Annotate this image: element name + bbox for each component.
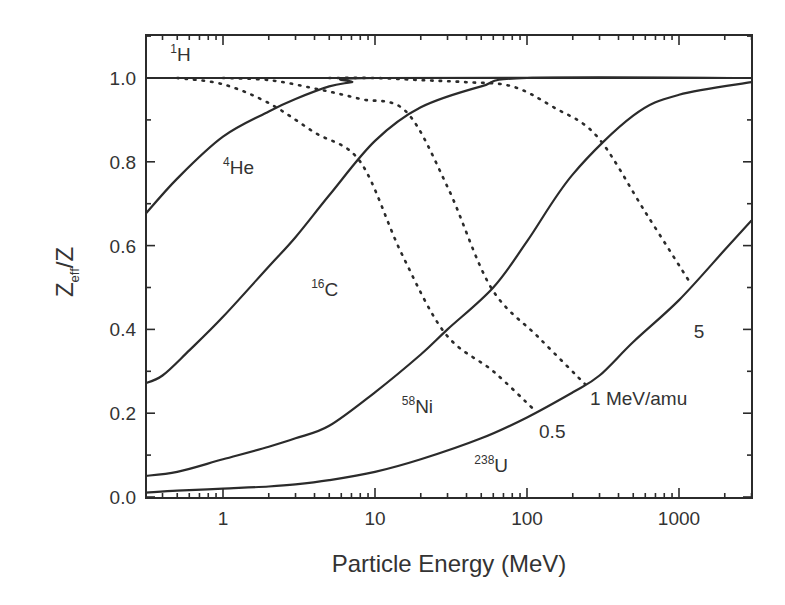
annotation-label: 0.5 bbox=[539, 421, 565, 442]
y-title-main: Z bbox=[51, 282, 78, 297]
annotation-label: 1 MeV/amu bbox=[590, 388, 687, 409]
x-axis: 1101001000 bbox=[163, 35, 752, 529]
y-tick-label: 0.8 bbox=[110, 152, 136, 173]
y-title-tail: /Z bbox=[51, 247, 78, 268]
curve-he bbox=[144, 78, 752, 217]
x-tick-label: 1 bbox=[218, 508, 229, 529]
curve-annotations: 1H4He16C58Ni238U0.51 MeV/amu5 bbox=[170, 42, 704, 476]
y-tick-label: 1.0 bbox=[110, 68, 136, 89]
curve-ni bbox=[144, 82, 752, 476]
y-tick-label: 0.0 bbox=[110, 487, 136, 508]
annotation-label: 238U bbox=[474, 453, 508, 476]
iso-velocity-line-0 bbox=[177, 78, 533, 409]
x-tick-label: 1000 bbox=[658, 508, 700, 529]
y-axis: 0.00.20.40.60.81.0 bbox=[110, 36, 752, 508]
curve-c bbox=[144, 77, 752, 384]
x-tick-label: 10 bbox=[364, 508, 385, 529]
ion-curves bbox=[144, 77, 752, 492]
x-axis-title: Particle Energy (MeV) bbox=[332, 550, 567, 577]
y-axis-title: Zeff/Z bbox=[51, 247, 82, 297]
svg-text:Zeff/Z: Zeff/Z bbox=[51, 247, 82, 297]
iso-velocity-line-2 bbox=[329, 78, 690, 283]
y-tick-label: 0.6 bbox=[110, 236, 136, 257]
annotation-label: 58Ni bbox=[402, 394, 433, 417]
plot-frame bbox=[146, 35, 752, 498]
iso-velocity-line-1 bbox=[223, 78, 585, 384]
annotation-label: 4He bbox=[223, 155, 254, 178]
curve-u bbox=[144, 221, 752, 493]
annotation-label: 1H bbox=[170, 42, 190, 65]
x-tick-label: 100 bbox=[511, 508, 543, 529]
annotation-label: 16C bbox=[311, 277, 338, 300]
y-tick-label: 0.4 bbox=[110, 319, 137, 340]
y-tick-label: 0.2 bbox=[110, 403, 136, 424]
iso-velocity-lines bbox=[177, 78, 690, 409]
y-title-sub: eff bbox=[67, 268, 82, 283]
zeff-chart: 1101001000 0.00.20.40.60.81.0 1H4He16C58… bbox=[0, 0, 785, 605]
annotation-label: 5 bbox=[694, 321, 705, 342]
